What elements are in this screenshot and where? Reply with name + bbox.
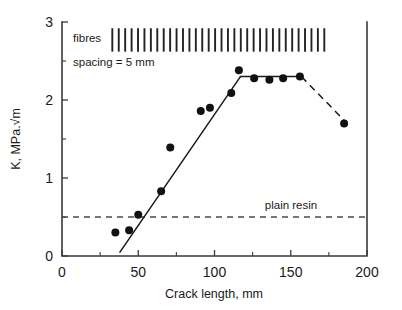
data-point <box>111 229 119 237</box>
figure-container: 050100150200 0123 Crack length, mm K, MP… <box>0 0 402 310</box>
x-tick-label: 0 <box>58 264 66 280</box>
y-tick-label: 3 <box>45 14 53 30</box>
x-axis-ticks <box>62 250 367 256</box>
x-axis-tick-labels: 050100150200 <box>58 264 379 280</box>
data-point <box>265 76 273 84</box>
x-tick-label: 150 <box>279 264 303 280</box>
data-point <box>235 66 243 74</box>
data-point <box>197 107 205 115</box>
y-axis-title: K, MPa.√m <box>9 108 23 170</box>
data-point <box>340 119 348 127</box>
plain-resin-label: plain resin <box>265 199 317 211</box>
data-point <box>250 74 258 82</box>
y-axis-ticks <box>62 22 68 256</box>
x-axis-title: Crack length, mm <box>165 287 263 301</box>
x-tick-label: 100 <box>203 264 227 280</box>
fibre-marks <box>112 28 324 51</box>
y-tick-label: 1 <box>45 170 53 186</box>
data-point <box>125 226 133 234</box>
rising-fit-line <box>120 77 240 253</box>
decline-line <box>301 77 347 124</box>
x-tick-label: 200 <box>355 264 379 280</box>
data-point <box>227 89 235 97</box>
data-point <box>166 144 174 152</box>
data-point <box>134 211 142 219</box>
data-point <box>206 104 214 112</box>
data-points <box>111 66 348 236</box>
chart-canvas: 050100150200 0123 Crack length, mm K, MP… <box>0 0 402 310</box>
data-point <box>296 73 304 81</box>
data-point <box>279 74 287 82</box>
data-point <box>157 187 165 195</box>
y-tick-label: 2 <box>45 92 53 108</box>
fibres-label: fibres <box>73 32 101 44</box>
y-tick-label: 0 <box>45 248 53 264</box>
spacing-label: spacing = 5 mm <box>73 56 155 68</box>
x-tick-label: 50 <box>130 264 146 280</box>
y-axis-tick-labels: 0123 <box>45 14 53 264</box>
